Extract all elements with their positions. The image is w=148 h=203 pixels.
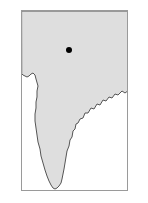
map-frame-border (21, 10, 128, 191)
map-canvas (22, 11, 127, 190)
map-figure (0, 0, 148, 203)
location-dot-marker[interactable] (66, 47, 72, 53)
